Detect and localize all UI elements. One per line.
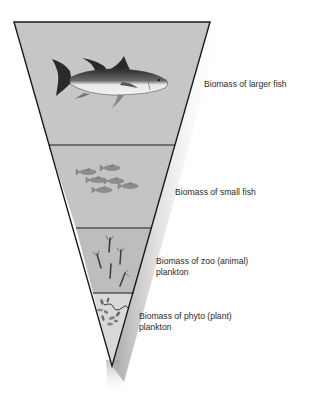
label-phytoplankton-line1: Biomass of phyto (plant) — [139, 311, 232, 322]
label-zooplankton-line2: plankton — [156, 267, 248, 278]
label-larger-fish-text: Biomass of larger fish — [204, 79, 287, 89]
label-zooplankton: Biomass of zoo (animal) plankton — [156, 256, 248, 278]
label-small-fish: Biomass of small fish — [175, 187, 256, 198]
label-small-fish-text: Biomass of small fish — [175, 187, 256, 197]
biomass-pyramid-diagram — [0, 0, 324, 396]
label-larger-fish: Biomass of larger fish — [204, 79, 287, 90]
label-zooplankton-line1: Biomass of zoo (animal) — [156, 256, 248, 267]
label-phytoplankton: Biomass of phyto (plant) plankton — [139, 311, 232, 333]
label-phytoplankton-line2: plankton — [139, 322, 232, 333]
